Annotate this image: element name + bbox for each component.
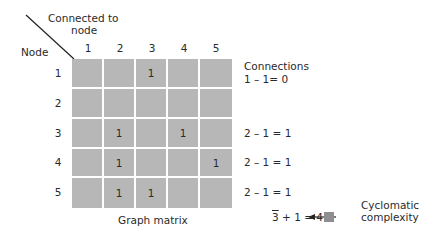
- matrix-cell: [72, 149, 102, 176]
- sum-total: 3: [272, 211, 279, 223]
- result-label-2: complexity: [361, 211, 419, 223]
- column-header: 3: [136, 42, 168, 54]
- matrix-cell: [168, 178, 198, 208]
- matrix-cell: [136, 119, 166, 147]
- sum-expression: 3 + 1 = 4: [272, 211, 323, 223]
- matrix-cell: [72, 89, 102, 117]
- matrix-cell: [168, 59, 198, 87]
- row-header: 4: [50, 156, 66, 168]
- connection-expr: 1 – 1= 0: [244, 73, 288, 85]
- column-header: 1: [72, 42, 104, 54]
- result-swatch: [324, 212, 334, 222]
- connections-header: Connections: [244, 60, 309, 72]
- matrix-cell: [168, 89, 198, 117]
- column-axis-label: Connected to: [48, 12, 118, 24]
- column-header: 5: [200, 42, 232, 54]
- row-header: 2: [50, 97, 66, 109]
- matrix-cell: [136, 89, 166, 117]
- matrix-cell: [200, 59, 232, 87]
- row-header: 5: [50, 186, 66, 198]
- connection-expr: 2 – 1 = 1: [244, 156, 291, 168]
- matrix-caption: Graph matrix: [118, 214, 188, 226]
- row-axis-label: Node: [21, 46, 48, 58]
- matrix-cell: 1: [104, 178, 134, 208]
- matrix-cell: [200, 89, 232, 117]
- matrix-cell: [72, 119, 102, 147]
- row-header: 1: [50, 67, 66, 79]
- column-header: 2: [104, 42, 136, 54]
- matrix-cell: [72, 178, 102, 208]
- matrix-cell: [104, 89, 134, 117]
- matrix-cell: 1: [136, 59, 166, 87]
- row-header: 3: [50, 127, 66, 139]
- column-header: 4: [168, 42, 200, 54]
- result-label: Cyclomatic: [361, 199, 419, 211]
- matrix-cell: [200, 178, 232, 208]
- graph-matrix: 1 1 1 1 1 1 1: [72, 59, 232, 208]
- sum-rest: + 1 = 4: [279, 211, 323, 223]
- matrix-cell: [104, 59, 134, 87]
- matrix-cell: [72, 59, 102, 87]
- matrix-cell: 1: [104, 149, 134, 176]
- matrix-cell: 1: [200, 149, 232, 176]
- matrix-cell: [200, 119, 232, 147]
- matrix-cell: 1: [104, 119, 134, 147]
- column-axis-label-2: node: [71, 24, 97, 36]
- matrix-cell: [168, 149, 198, 176]
- matrix-cell: [136, 149, 166, 176]
- matrix-cell: 1: [136, 178, 166, 208]
- connection-expr: 2 – 1 = 1: [244, 127, 291, 139]
- matrix-cell: 1: [168, 119, 198, 147]
- connection-expr: 2 – 1 = 1: [244, 186, 291, 198]
